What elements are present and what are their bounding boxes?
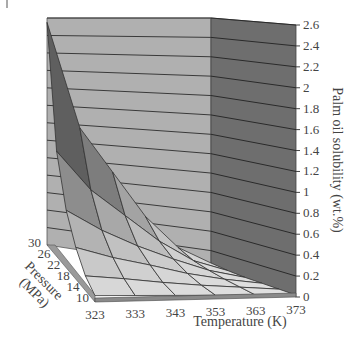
z-tick-label: 0.6 <box>303 226 320 241</box>
z-tick-label: 1.6 <box>303 122 320 137</box>
z-axis-ticks: 00.20.40.60.811.21.41.61.822.22.42.6 <box>296 17 320 304</box>
z-tick-label: 0.8 <box>303 205 319 220</box>
z-tick-label: 2.2 <box>303 59 319 74</box>
x-tick-label: 323 <box>85 307 105 322</box>
x-tick-label: 373 <box>286 302 306 317</box>
surface-chart: 00.20.40.60.811.21.41.61.822.22.42.6 323… <box>0 0 357 345</box>
x-tick-label: 333 <box>125 306 145 321</box>
x-tick-label: 343 <box>166 305 186 320</box>
z-tick-label: 1.2 <box>303 163 319 178</box>
right-wall <box>211 18 296 297</box>
z-tick-label: 2.6 <box>303 17 320 32</box>
z-tick-label: 1.4 <box>303 143 320 158</box>
z-tick-label: 0.4 <box>303 247 320 262</box>
z-tick-label: 2 <box>303 80 310 95</box>
z-tick-label: 2.4 <box>303 38 320 53</box>
z-tick-label: 1.8 <box>303 101 319 116</box>
y-tick-label: 30 <box>28 235 41 250</box>
x-axis-title: Temperature (K) <box>193 314 287 330</box>
z-tick-label: 1 <box>303 184 310 199</box>
z-axis-title: Palm oil solubility (wt.%) <box>329 87 345 233</box>
z-tick-label: 0.2 <box>303 268 319 283</box>
